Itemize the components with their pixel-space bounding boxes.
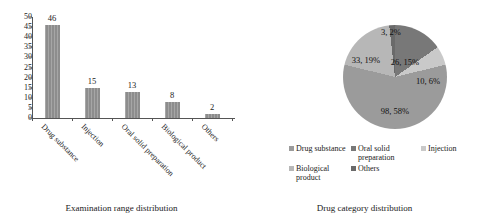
- bar-chart-plot-area: [32, 17, 232, 118]
- bar-chart-x-tick-mark: [112, 118, 113, 121]
- bar-chart-x-tick-mark: [192, 118, 193, 121]
- bar-chart-category-label: Others: [200, 122, 221, 143]
- bar-chart-value-label: 15: [88, 77, 97, 86]
- legend-swatch-icon: [289, 146, 294, 151]
- pie-chart-slice-label: 26, 15%: [391, 58, 419, 67]
- pie-chart-legend-label: Injection: [428, 144, 456, 153]
- legend-swatch-icon: [289, 166, 294, 171]
- bar-chart-x-tick-mark: [232, 118, 233, 121]
- pie-chart-slice-label: 98, 58%: [381, 107, 409, 116]
- pie-chart-caption: Drug category distribution: [243, 203, 486, 214]
- pie-chart-legend-label: Drug substance: [296, 144, 346, 153]
- bar-chart-bar: [125, 92, 140, 118]
- pie-chart-panel: 98, 58%26, 15%10, 6%33, 19%3, 2% Drug su…: [243, 0, 486, 224]
- pie-chart-legend-item[interactable]: Others: [351, 164, 421, 182]
- bar-chart-x-tick-mark: [72, 118, 73, 121]
- bar-chart-value-label: 2: [210, 103, 214, 112]
- bar-chart-category-label: Injection: [80, 122, 106, 148]
- bar-chart-caption: Examination range distribution: [0, 203, 243, 214]
- legend-swatch-icon: [351, 146, 356, 151]
- pie-chart-legend-label: Others: [358, 164, 379, 173]
- pie-chart-legend-item[interactable]: Oral solid preparation: [351, 144, 421, 162]
- bar-chart-panel: 50454035302520151050 46151382 Drug subst…: [0, 0, 243, 224]
- bar-chart-x-tick-mark: [32, 118, 33, 121]
- bar-chart-bar: [85, 88, 100, 118]
- bar-chart-bar: [205, 114, 220, 118]
- bar-chart-category-label: Drug substance: [40, 122, 81, 163]
- pie-chart-legend-label: Biological product: [296, 164, 351, 182]
- bar-chart-value-label: 13: [128, 81, 137, 90]
- pie-chart-legend: Drug substanceOral solid preparationInje…: [289, 144, 479, 182]
- bar-chart-value-label: 8: [170, 91, 174, 100]
- pie-chart-legend-item[interactable]: Drug substance: [289, 144, 351, 162]
- legend-swatch-icon: [421, 146, 426, 151]
- legend-swatch-icon: [351, 166, 356, 171]
- bar-chart-x-tick-mark: [152, 118, 153, 121]
- bar-chart-bar: [45, 25, 60, 118]
- pie-chart-legend-item[interactable]: Injection: [421, 144, 479, 162]
- pie-chart-legend-label: Oral solid preparation: [358, 144, 421, 162]
- pie-chart-slice-label: 33, 19%: [352, 56, 380, 65]
- pie-chart-slice-label: 3, 2%: [381, 28, 401, 37]
- pie-chart-legend-item[interactable]: Biological product: [289, 164, 351, 182]
- bar-chart-bar: [165, 102, 180, 118]
- pie-chart-slice-label: 10, 6%: [416, 77, 440, 86]
- bar-chart-value-label: 46: [48, 14, 57, 23]
- bar-chart-x-axis: [32, 118, 235, 119]
